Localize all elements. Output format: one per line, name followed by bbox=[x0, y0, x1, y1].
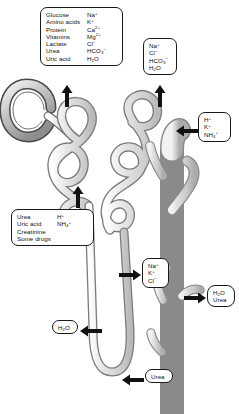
pct-reabsorption-ion: H2O bbox=[87, 55, 106, 62]
callout-collecting-duct: H2O Urea bbox=[207, 285, 235, 307]
callout-pct-secretion: Urea Uric acid Creatinine Some drugs H+ … bbox=[11, 209, 94, 246]
callout-thin-limb: Urea bbox=[145, 369, 173, 383]
pct-reabsorption-ion: Na+ bbox=[87, 11, 106, 18]
ascending-limb-item: Cl− bbox=[148, 277, 164, 284]
callout-dct-reabsorption: Na+ Cl− HCO3− H2O bbox=[143, 38, 177, 75]
dct-secretion-item: NH4+ bbox=[204, 131, 226, 138]
callout-pct-reabsorption: Glucose Amino acids Protein Vitamins Lac… bbox=[40, 7, 123, 66]
pct-reabsorption-item: Uric acid bbox=[46, 55, 87, 62]
arrow-pct-secretion bbox=[72, 186, 84, 208]
arrow-thin-limb bbox=[122, 374, 144, 386]
ascending-limb-item: Na+ bbox=[148, 262, 164, 269]
glomerular-capsule bbox=[5, 84, 51, 137]
pct-reabsorption-item: Urea bbox=[46, 47, 87, 54]
pct-reabsorption-ion: HCO3− bbox=[87, 47, 106, 54]
arrow-collecting-duct bbox=[184, 292, 206, 304]
pct-reabsorption-item: Amino acids bbox=[46, 18, 87, 25]
dct-reabsorption-item: H2O bbox=[149, 64, 172, 71]
dct-reabsorption-item: HCO3− bbox=[149, 57, 172, 64]
pct-secretion-ion: NH4+ bbox=[57, 220, 71, 227]
descending-limb-item: H2O bbox=[58, 324, 72, 331]
arrow-dct-reabsorption bbox=[154, 85, 166, 107]
pct-reabsorption-ion: Mg2+ bbox=[87, 33, 106, 40]
pct-secretion-item: Uric acid bbox=[17, 220, 57, 227]
arrow-pct-reabsorption bbox=[61, 85, 73, 107]
callout-descending-limb: H2O bbox=[52, 320, 78, 334]
dct-secretion-item: K+ bbox=[204, 123, 226, 130]
pct-reabsorption-item: Lactate bbox=[46, 40, 87, 47]
collecting-duct-item: Urea bbox=[213, 296, 229, 303]
dct-reabsorption-item: Cl− bbox=[149, 49, 172, 56]
collecting-duct-item: H2O bbox=[213, 289, 229, 296]
pct-reabsorption-item: Glucose bbox=[46, 11, 87, 18]
nephron-diagram: Glucose Amino acids Protein Vitamins Lac… bbox=[0, 0, 239, 414]
pct-secretion-item: Urea bbox=[17, 213, 57, 220]
pct-reabsorption-item: Protein bbox=[46, 26, 87, 33]
arrow-dct-secretion bbox=[176, 125, 198, 137]
arrow-descending-limb bbox=[80, 325, 102, 337]
callout-dct-secretion: H+ K+ NH4+ bbox=[198, 112, 231, 142]
callout-ascending-limb: Na+ K+ Cl− bbox=[142, 258, 169, 288]
pct-reabsorption-item: Vitamins bbox=[46, 33, 87, 40]
thin-limb-item: Urea bbox=[151, 373, 167, 380]
arrow-ascending-limb bbox=[119, 269, 141, 281]
distal-convoluted-tubule bbox=[105, 95, 157, 230]
pct-secretion-item: Creatinine bbox=[17, 228, 57, 235]
pct-secretion-item: Some drugs bbox=[17, 235, 57, 242]
dct-reabsorption-item: Na+ bbox=[149, 42, 172, 49]
